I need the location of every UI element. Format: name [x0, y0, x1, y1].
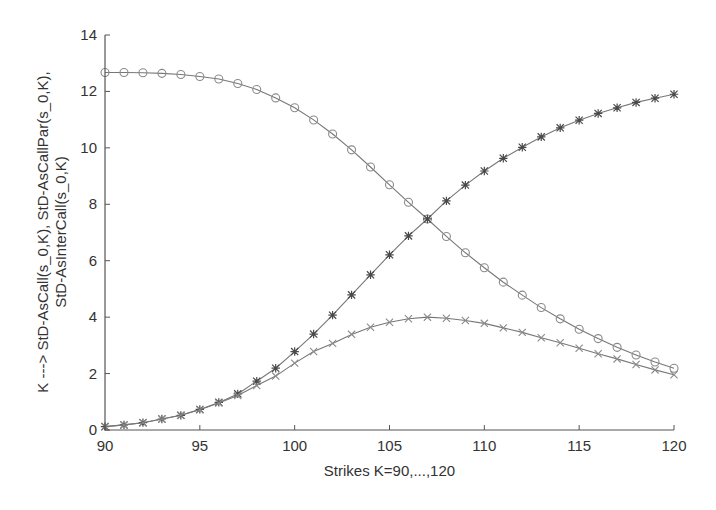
- star-marker: [594, 109, 602, 117]
- star-marker: [347, 291, 355, 299]
- y-tick-label: 12: [80, 82, 97, 99]
- y-tick-label: 2: [89, 365, 97, 382]
- x-marker: [348, 331, 355, 338]
- y-tick-label: 6: [89, 252, 97, 269]
- x-tick-label: 95: [191, 437, 208, 454]
- y-tick-label: 8: [89, 195, 97, 212]
- star-marker: [518, 143, 526, 151]
- star-marker: [309, 330, 317, 338]
- x-marker: [291, 360, 298, 367]
- x-tick-label: 110: [472, 437, 496, 454]
- x-marker: [272, 373, 279, 380]
- star-marker: [499, 154, 507, 162]
- series-x: [101, 314, 677, 431]
- x-marker: [367, 324, 374, 331]
- star-marker: [423, 215, 431, 223]
- y-axis-title-line-1: K ---> StD-AsCall(s_0,K), StD-AsCallPar(…: [34, 71, 51, 392]
- x-marker: [632, 361, 639, 368]
- star-marker: [461, 181, 469, 189]
- x-marker: [329, 340, 336, 347]
- x-marker: [595, 350, 602, 357]
- series-star: [101, 90, 678, 431]
- y-tick-label: 14: [80, 26, 97, 43]
- star-marker: [537, 133, 545, 141]
- x-marker: [576, 345, 583, 352]
- star-marker: [272, 364, 280, 372]
- star-marker: [556, 124, 564, 132]
- y-axis-title: K ---> StD-AsCall(s_0,K), StD-AsCallPar(…: [34, 71, 69, 392]
- x-tick-label: 120: [661, 437, 686, 454]
- star-marker: [632, 98, 640, 106]
- x-axis-title: Strikes K=90,...,120: [324, 462, 455, 479]
- x-marker: [557, 339, 564, 346]
- y-tick-label: 10: [80, 139, 97, 156]
- star-marker: [404, 232, 412, 240]
- x-marker: [310, 348, 317, 355]
- line-chart: 9095100105110115120 02468101214 Strikes …: [0, 0, 716, 510]
- star-marker: [328, 311, 336, 319]
- star-marker: [366, 271, 374, 279]
- star-marker: [651, 94, 659, 102]
- x-marker: [538, 334, 545, 341]
- series-layer: [101, 69, 678, 431]
- x-tick-label: 90: [97, 437, 114, 454]
- y-tick-label: 0: [89, 421, 97, 438]
- x-marker: [614, 355, 621, 362]
- axes: 9095100105110115120 02468101214: [80, 26, 686, 454]
- star-marker: [290, 347, 298, 355]
- x-tick-label: 100: [282, 437, 307, 454]
- x-ticks: 9095100105110115120: [97, 425, 687, 454]
- x-marker: [651, 366, 658, 373]
- x-marker: [519, 329, 526, 336]
- star-marker: [480, 167, 488, 175]
- series-circle: [101, 69, 678, 373]
- x-tick-label: 105: [377, 437, 402, 454]
- star-marker: [613, 104, 621, 112]
- y-tick-label: 4: [89, 308, 97, 325]
- circle-marker: [670, 364, 678, 372]
- series-line: [105, 94, 674, 426]
- x-tick-label: 115: [567, 437, 591, 454]
- star-marker: [442, 197, 450, 205]
- star-marker: [575, 116, 583, 124]
- star-marker: [385, 251, 393, 259]
- y-axis-title-line-2: StD-AsInterCall(s_0,K): [52, 156, 69, 308]
- star-marker: [670, 90, 678, 98]
